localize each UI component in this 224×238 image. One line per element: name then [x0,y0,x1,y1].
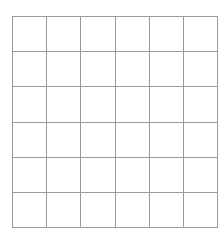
grid-cell-r6-c1 [13,193,47,228]
grid-cell-r5-c1 [13,158,47,193]
grid-cell-r5-c5 [150,158,184,193]
grid-cell-r5-c3 [81,158,115,193]
grid-cell-r6-c4 [116,193,150,228]
grid-cell-r4-c6 [184,123,218,158]
grid-cell-r3-c5 [150,87,184,122]
grid-cell-r3-c3 [81,87,115,122]
empty-grid [12,16,218,228]
grid-cell-r3-c2 [47,87,81,122]
grid-cell-r5-c4 [116,158,150,193]
grid-cell-r1-c2 [47,17,81,52]
grid-cell-r6-c6 [184,193,218,228]
grid-cell-r2-c3 [81,52,115,87]
grid-cell-r4-c5 [150,123,184,158]
grid-cell-r2-c2 [47,52,81,87]
grid-cell-r2-c5 [150,52,184,87]
grid-cell-r3-c1 [13,87,47,122]
grid-cell-r3-c4 [116,87,150,122]
grid-cell-r2-c4 [116,52,150,87]
grid-cell-r1-c3 [81,17,115,52]
grid-cell-r1-c5 [150,17,184,52]
grid-cell-r2-c6 [184,52,218,87]
grid-cell-r3-c6 [184,87,218,122]
grid-cell-r4-c2 [47,123,81,158]
grid-cell-r6-c5 [150,193,184,228]
grid-cell-r4-c3 [81,123,115,158]
grid-cell-r5-c6 [184,158,218,193]
grid-cell-r5-c2 [47,158,81,193]
grid-cell-r6-c2 [47,193,81,228]
grid-cell-r4-c4 [116,123,150,158]
grid-cell-r4-c1 [13,123,47,158]
grid-cell-r1-c4 [116,17,150,52]
grid-cell-r1-c1 [13,17,47,52]
grid-cell-r6-c3 [81,193,115,228]
grid-cell-r1-c6 [184,17,218,52]
grid-cell-r2-c1 [13,52,47,87]
